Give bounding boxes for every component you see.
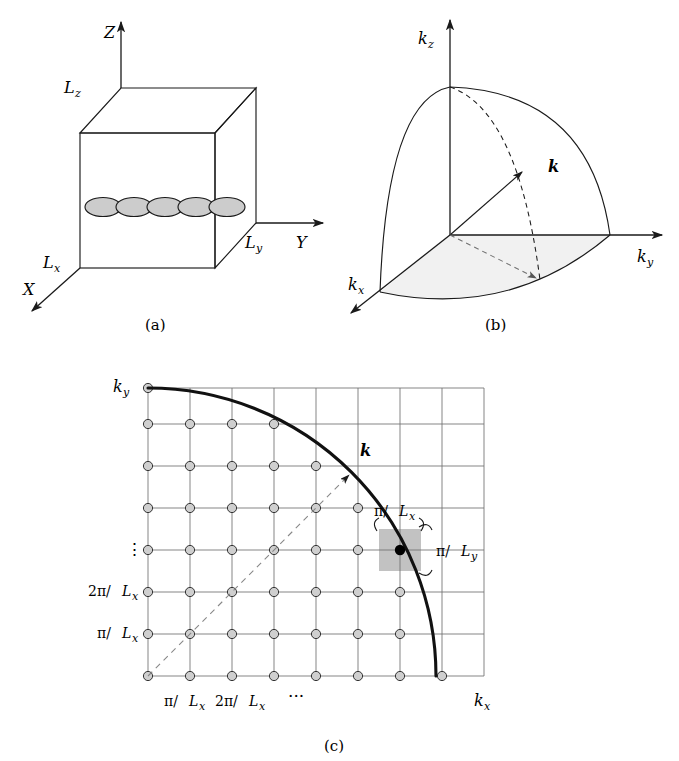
panel-b-k-space-octant: k z k y k x k (b) bbox=[340, 0, 679, 340]
lattice-node bbox=[185, 461, 194, 470]
x-tick-2pi-lx: 2π/ L x bbox=[215, 693, 266, 713]
k-vector-label-c: k bbox=[360, 441, 371, 460]
lattice-node bbox=[311, 671, 320, 680]
kx-sub: x bbox=[358, 284, 365, 297]
brace-lx-base: L bbox=[398, 503, 408, 519]
dimension-label-lz: L z bbox=[63, 78, 81, 100]
cube-wireframe bbox=[80, 88, 256, 268]
panel-c-caption: (c) bbox=[324, 737, 344, 755]
lattice-node bbox=[269, 587, 278, 596]
k-vector-label: k bbox=[548, 157, 559, 176]
x-tick-pi-lx-base: L bbox=[188, 693, 198, 709]
lattice-node bbox=[353, 503, 362, 512]
lattice-node bbox=[311, 545, 320, 554]
ly-sub: y bbox=[255, 242, 263, 255]
cube-top-face bbox=[80, 88, 256, 133]
ly-base: L bbox=[244, 233, 256, 252]
lattice-node bbox=[311, 587, 320, 596]
lattice-node bbox=[185, 671, 194, 680]
y-axis-ellipsis: ⋮ bbox=[126, 539, 143, 559]
kx-base: k bbox=[348, 275, 358, 294]
x-tick-pi-lx-sub: x bbox=[199, 700, 206, 713]
y-tick-pi-lx-base: L bbox=[121, 625, 131, 641]
axis-label-ky-c: k y bbox=[113, 377, 130, 399]
lattice-node bbox=[395, 629, 404, 638]
lattice-node bbox=[353, 671, 362, 680]
axis-label-kz: k z bbox=[418, 29, 434, 51]
lattice-node bbox=[185, 545, 194, 554]
lattice-node bbox=[269, 461, 278, 470]
lattice-node bbox=[311, 461, 320, 470]
lattice-node bbox=[395, 587, 404, 596]
kz-sub: z bbox=[427, 38, 434, 51]
axis-label-kx: k x bbox=[348, 275, 365, 297]
lattice-node bbox=[143, 545, 152, 554]
panel-c-k-space-lattice: 2π/ L x π/ L x ⋮ π/ L x 2π/ L x ··· bbox=[0, 340, 679, 761]
lattice-node bbox=[227, 461, 236, 470]
lattice-node bbox=[437, 671, 446, 680]
ky-sub: y bbox=[646, 256, 654, 269]
kz-base: k bbox=[418, 29, 428, 48]
lattice-node bbox=[269, 671, 278, 680]
x-tick-2pi-lx-sub: x bbox=[259, 700, 266, 713]
lattice-node bbox=[353, 545, 362, 554]
octant-base-shading bbox=[380, 235, 610, 299]
lattice-node bbox=[143, 587, 152, 596]
arc-kz-ky bbox=[450, 87, 610, 235]
lattice-node bbox=[143, 503, 152, 512]
lattice-node bbox=[227, 419, 236, 428]
lz-sub: z bbox=[74, 87, 81, 100]
ellipse-chain bbox=[85, 198, 245, 217]
lattice-node bbox=[185, 419, 194, 428]
x-tick-2pi-lx-num: 2π/ bbox=[215, 693, 238, 709]
panel-a-real-space-box: Z Y X L z L x L y (a) bbox=[0, 0, 340, 340]
lattice-node bbox=[353, 587, 362, 596]
dimension-label-ly: L y bbox=[244, 233, 263, 255]
k-vector-arrow bbox=[450, 172, 522, 235]
lx-sub: x bbox=[54, 262, 61, 275]
lattice-node bbox=[143, 461, 152, 470]
lattice-node bbox=[143, 419, 152, 428]
chain-ellipse bbox=[209, 198, 245, 217]
axis-label-kx-c: k x bbox=[474, 691, 491, 713]
kx-c-base: k bbox=[474, 691, 484, 710]
lattice-node bbox=[227, 503, 236, 512]
ky-c-base: k bbox=[113, 377, 123, 396]
lattice-node bbox=[185, 587, 194, 596]
axis-label-y: Y bbox=[296, 233, 308, 252]
ky-c-sub: y bbox=[122, 386, 130, 399]
lattice-node bbox=[269, 419, 278, 428]
kx-c-sub: x bbox=[484, 700, 491, 713]
x-tick-pi-lx: π/ L x bbox=[164, 693, 206, 713]
x-tick-pi-lx-num: π/ bbox=[164, 693, 178, 709]
y-tick-pi-lx-sub: x bbox=[132, 632, 139, 645]
y-tick-2pi-lx-base: L bbox=[121, 583, 131, 599]
figure-root: Z Y X L z L x L y (a) bbox=[0, 0, 679, 761]
axis-label-ky: k y bbox=[637, 247, 654, 269]
brace-ly-num: π/ bbox=[436, 543, 450, 559]
x-tick-2pi-lx-base: L bbox=[248, 693, 258, 709]
brace-lx-num: π/ bbox=[374, 503, 388, 519]
lattice-node bbox=[269, 629, 278, 638]
lattice-node bbox=[143, 629, 152, 638]
lattice-node bbox=[227, 545, 236, 554]
brace-label-pi-lx: π/ L x bbox=[374, 503, 416, 523]
lattice-node bbox=[227, 671, 236, 680]
brace-ly-sub: y bbox=[470, 550, 478, 563]
x-axis-ellipsis: ··· bbox=[288, 686, 304, 706]
lattice-node bbox=[353, 629, 362, 638]
lattice-node bbox=[185, 503, 194, 512]
panel-a-caption: (a) bbox=[145, 316, 166, 334]
axis-label-z: Z bbox=[103, 23, 116, 42]
y-tick-pi-lx: π/ L x bbox=[97, 625, 139, 645]
lx-base: L bbox=[42, 253, 54, 272]
dimension-label-lx: L x bbox=[42, 253, 61, 275]
lattice-node bbox=[269, 503, 278, 512]
brace-lx-sub: x bbox=[409, 510, 416, 523]
selected-state-dot bbox=[395, 545, 405, 555]
y-tick-pi-lx-num: π/ bbox=[97, 625, 111, 641]
panel-b-caption: (b) bbox=[485, 316, 506, 334]
lz-base: L bbox=[63, 78, 75, 97]
lattice-node bbox=[311, 629, 320, 638]
y-tick-2pi-lx: 2π/ L x bbox=[88, 583, 139, 603]
